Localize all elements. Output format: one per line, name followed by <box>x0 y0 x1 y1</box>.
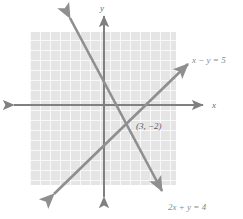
graph-figure: x y (3, −2) x − y = 5 2x + y = 4 <box>0 0 243 219</box>
y-axis-label: y <box>99 3 104 13</box>
intersection-point-label: (3, −2) <box>136 121 162 131</box>
equation-label-2x-plus-y: 2x + y = 4 <box>168 202 207 212</box>
x-axis-label: x <box>211 100 216 110</box>
equation-label-x-minus-y: x − y = 5 <box>191 55 226 65</box>
